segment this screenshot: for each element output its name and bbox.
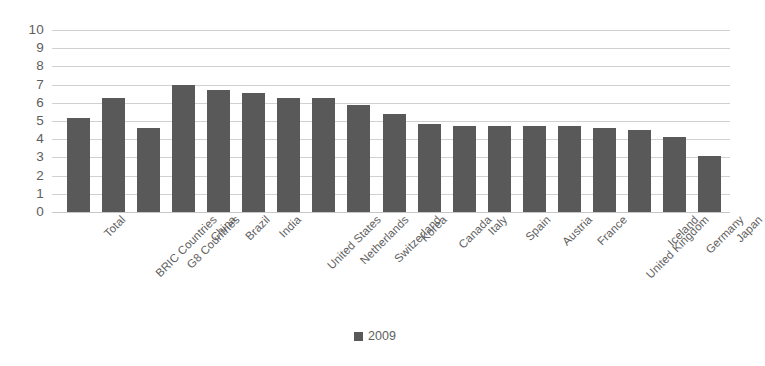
bars-layer xyxy=(52,30,730,212)
bar xyxy=(418,124,441,212)
x-axis-tick: Austria xyxy=(561,214,595,248)
x-axis-tick: India xyxy=(277,214,303,240)
bar xyxy=(172,85,195,212)
x-axis-tick-label: Austria xyxy=(561,214,595,248)
y-axis-tick-label: 9 xyxy=(0,41,44,55)
y-axis-tick-label: 2 xyxy=(0,169,44,183)
bar xyxy=(347,105,370,212)
bar xyxy=(488,126,511,212)
bar xyxy=(242,93,265,212)
y-axis-tick-label: 4 xyxy=(0,132,44,146)
bar xyxy=(137,128,160,212)
bar xyxy=(558,126,581,212)
x-axis-tick: Spain xyxy=(524,214,553,243)
y-axis-tick-label: 5 xyxy=(0,114,44,128)
bar xyxy=(383,114,406,212)
x-axis-tick: Canada xyxy=(457,214,494,251)
y-axis-tick-label: 1 xyxy=(0,187,44,201)
bar xyxy=(277,98,300,212)
x-axis-tick: Brazil xyxy=(243,214,272,243)
bar xyxy=(663,137,686,212)
bar xyxy=(67,118,90,212)
x-axis-tick-label: United Kingdom xyxy=(645,214,712,281)
bar xyxy=(698,156,721,212)
legend-square-marker-icon xyxy=(354,332,363,341)
y-axis-tick-label: 8 xyxy=(0,60,44,74)
bar xyxy=(523,126,546,212)
y-axis-tick-label: 7 xyxy=(0,78,44,92)
x-axis-labels: TotalBRIC CountriesG8 CountriesChinaBraz… xyxy=(52,214,730,304)
bar xyxy=(312,98,335,212)
x-axis-tick-label: Korea xyxy=(419,214,449,244)
x-axis-tick-label: France xyxy=(596,214,630,248)
x-axis-tick: United Kingdom xyxy=(645,214,712,281)
chart-legend: 2009 xyxy=(0,330,750,343)
x-axis-tick: Korea xyxy=(419,214,449,244)
bar xyxy=(453,126,476,212)
legend-label: 2009 xyxy=(368,330,396,343)
y-axis-tick-label: 6 xyxy=(0,96,44,110)
bar xyxy=(628,130,651,212)
y-axis-tick-label: 0 xyxy=(0,205,44,219)
y-axis-tick-label: 10 xyxy=(0,23,44,37)
y-axis-tick-label: 3 xyxy=(0,151,44,165)
x-axis-tick-label: Canada xyxy=(457,214,494,251)
x-axis-tick-label: Spain xyxy=(524,214,553,243)
bar xyxy=(102,98,125,212)
x-axis-tick: France xyxy=(596,214,630,248)
axis-baseline xyxy=(52,212,730,213)
x-axis-tick: Total xyxy=(102,214,128,240)
y-axis: 109876543210 xyxy=(0,30,44,212)
x-axis-tick-label: Total xyxy=(102,214,128,240)
bar xyxy=(593,128,616,212)
bar xyxy=(207,90,230,212)
x-axis-tick-label: Brazil xyxy=(243,214,272,243)
x-axis-tick-label: India xyxy=(277,214,303,240)
